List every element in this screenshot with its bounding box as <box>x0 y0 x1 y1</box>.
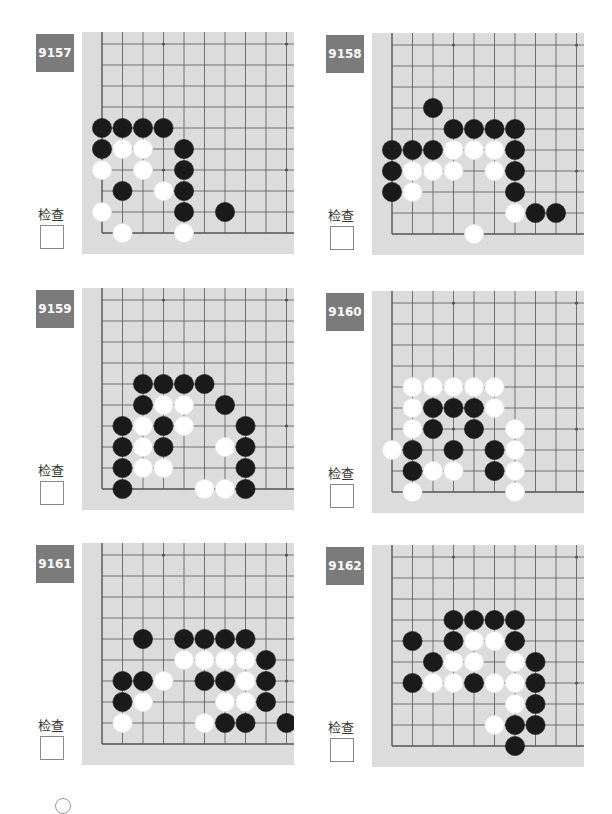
white-stone <box>464 140 483 159</box>
go-board <box>372 291 584 513</box>
black-stone <box>236 629 255 648</box>
white-stone <box>423 377 442 396</box>
white-stone <box>403 419 422 438</box>
check-label: 检查 <box>38 460 64 479</box>
black-stone <box>215 395 234 414</box>
white-stone <box>92 160 111 179</box>
white-stone <box>195 650 214 669</box>
white-stone <box>505 482 524 501</box>
black-stone <box>174 139 193 158</box>
white-stone <box>444 673 463 692</box>
white-stone <box>236 671 255 690</box>
black-stone <box>236 437 255 456</box>
black-stone <box>277 713 294 732</box>
white-stone <box>403 182 422 201</box>
black-stone <box>403 461 422 480</box>
black-stone <box>133 671 152 690</box>
black-stone <box>133 374 152 393</box>
black-stone <box>403 673 422 692</box>
white-stone <box>215 479 234 498</box>
black-stone <box>215 629 234 648</box>
white-stone <box>464 652 483 671</box>
white-stone <box>195 479 214 498</box>
black-stone <box>113 437 132 456</box>
problem-panel: 9160 检查 <box>326 291 596 526</box>
black-stone <box>444 398 463 417</box>
check-label: 检查 <box>38 715 64 734</box>
white-stone <box>444 652 463 671</box>
black-stone <box>505 161 524 180</box>
black-stone <box>133 118 152 137</box>
black-stone <box>423 98 442 117</box>
white-stone <box>174 416 193 435</box>
white-stone <box>485 673 504 692</box>
white-stone <box>215 692 234 711</box>
white-stone <box>464 224 483 243</box>
black-stone <box>444 119 463 138</box>
black-stone <box>174 374 193 393</box>
black-stone <box>236 713 255 732</box>
black-stone <box>546 203 565 222</box>
black-stone <box>113 181 132 200</box>
problem-panel: 9158 检查 <box>326 33 596 268</box>
black-stone <box>526 694 545 713</box>
black-stone <box>485 440 504 459</box>
white-stone <box>154 671 173 690</box>
black-stone <box>464 119 483 138</box>
check-checkbox[interactable] <box>40 481 64 505</box>
black-stone <box>423 652 442 671</box>
black-stone <box>485 610 504 629</box>
go-board <box>372 33 584 255</box>
black-stone <box>403 440 422 459</box>
white-stone <box>133 458 152 477</box>
white-stone <box>236 692 255 711</box>
white-stone <box>133 139 152 158</box>
check-checkbox[interactable] <box>330 738 354 762</box>
white-stone <box>485 377 504 396</box>
white-stone <box>485 715 504 734</box>
black-stone <box>256 671 275 690</box>
black-stone <box>444 631 463 650</box>
check-checkbox[interactable] <box>330 226 354 250</box>
white-stone <box>464 631 483 650</box>
problem-panel: 9162 检查 <box>326 545 596 780</box>
check-label: 检查 <box>38 204 64 223</box>
black-stone <box>505 182 524 201</box>
white-stone <box>464 377 483 396</box>
white-stone <box>485 398 504 417</box>
black-stone <box>195 629 214 648</box>
check-checkbox[interactable] <box>40 225 64 249</box>
black-stone <box>505 610 524 629</box>
white-stone <box>505 203 524 222</box>
white-stone <box>133 437 152 456</box>
white-stone <box>505 652 524 671</box>
black-stone <box>526 203 545 222</box>
white-stone <box>215 650 234 669</box>
white-stone <box>174 650 193 669</box>
black-stone <box>92 139 111 158</box>
problem-panel: 9159 检查 <box>36 288 306 523</box>
black-stone <box>256 692 275 711</box>
black-stone <box>113 671 132 690</box>
white-stone <box>154 458 173 477</box>
black-stone <box>382 140 401 159</box>
black-stone <box>133 629 152 648</box>
white-stone <box>174 395 193 414</box>
page-marker-icon <box>55 798 71 814</box>
black-stone <box>382 182 401 201</box>
white-stone <box>505 673 524 692</box>
white-stone <box>423 461 442 480</box>
check-checkbox[interactable] <box>330 484 354 508</box>
check-checkbox[interactable] <box>40 736 64 760</box>
go-board <box>372 545 584 767</box>
problem-number: 9159 <box>36 290 74 328</box>
go-board <box>82 288 294 510</box>
white-stone <box>505 461 524 480</box>
black-stone <box>485 119 504 138</box>
problem-number: 9157 <box>36 34 74 72</box>
black-stone <box>526 673 545 692</box>
white-stone <box>92 202 111 221</box>
white-stone <box>485 161 504 180</box>
black-stone <box>526 652 545 671</box>
white-stone <box>423 161 442 180</box>
